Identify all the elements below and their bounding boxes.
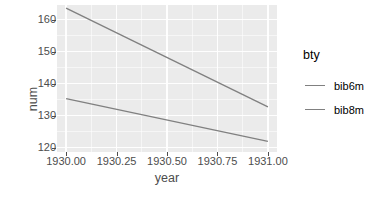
y-tick-label: 140	[10, 77, 56, 90]
series-line-bib6m	[66, 8, 268, 107]
y-tick-mark	[52, 52, 56, 53]
series-line-bib8m	[66, 99, 268, 142]
y-tick-mark	[52, 84, 56, 85]
data-lines	[57, 5, 277, 152]
y-tick-label: 150	[10, 45, 56, 58]
y-axis-title: num	[22, 0, 44, 198]
legend-item-bib6m: bib6m	[303, 74, 381, 98]
legend-label: bib8m	[334, 104, 364, 116]
x-axis-title: year	[57, 171, 277, 185]
legend-title: bty	[303, 48, 381, 62]
legend-key-line	[305, 109, 325, 110]
ggplot-chart: num 120130140150160 1930.001930.251930.5…	[0, 0, 382, 198]
x-tick-label: 1931.00	[233, 155, 303, 168]
y-tick-mark	[52, 20, 56, 21]
y-tick-label: 160	[10, 13, 56, 26]
y-tick-mark	[52, 148, 56, 149]
legend-key-swatch	[303, 98, 327, 122]
legend-key-swatch	[303, 74, 327, 98]
legend-label: bib6m	[334, 80, 364, 92]
y-tick-label: 120	[10, 141, 56, 154]
legend: bty bib6mbib8m	[303, 48, 381, 122]
y-tick-label: 130	[10, 109, 56, 122]
legend-key-line	[305, 85, 325, 86]
plot-panel	[57, 5, 277, 152]
legend-items: bib6mbib8m	[303, 74, 381, 122]
y-tick-mark	[52, 116, 56, 117]
legend-item-bib8m: bib8m	[303, 98, 381, 122]
